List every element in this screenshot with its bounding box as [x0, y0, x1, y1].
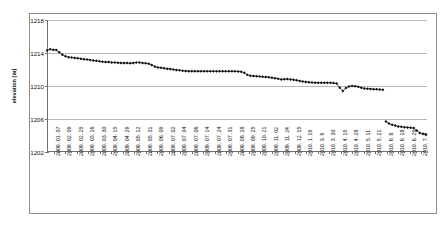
x-tick-label: 2009. 07. 06: [193, 127, 199, 156]
x-tick-label: 2010. 4. 28: [353, 129, 359, 156]
x-tick-label: 2009. 07. 02: [170, 127, 176, 156]
gridline: [48, 119, 427, 120]
y-tick-label: 1218: [30, 17, 44, 24]
x-tick-label: 2010. 6. 8: [388, 132, 394, 156]
y-tick-mark: [45, 86, 48, 87]
x-tick-label: 2009. 08. 28: [239, 127, 245, 156]
x-tick-label: 2009. 05. 31: [147, 127, 153, 156]
x-tick-label: 2009. 02. 25: [78, 127, 84, 156]
x-tick-label: 2009. 07. 04: [181, 127, 187, 156]
x-tick-label: 2009. 02. 09: [66, 127, 72, 156]
x-tick-label: 2009. 12. 15: [296, 127, 302, 156]
x-tick-label: 2009. 11. 02: [273, 127, 279, 156]
y-axis-title: elevation (m): [11, 69, 17, 104]
gridline: [48, 20, 427, 21]
x-tick-label: 2010. 4. 15: [342, 129, 348, 156]
x-tick-label: 2010. 3. 30: [330, 129, 336, 156]
x-tick-label: 2009. 07. 14: [204, 127, 210, 156]
x-tick-label: 2009. 03. 30: [101, 127, 107, 156]
y-tick-label: 1206: [30, 116, 44, 123]
y-tick-mark: [45, 53, 48, 54]
x-tick-label: 2009. 07. 24: [216, 127, 222, 156]
x-tick-label: 2009. 06. 09: [158, 127, 164, 156]
x-tick-label: 2009. 09. 25: [250, 127, 256, 156]
x-tick-label: 2010. 7. 8: [422, 132, 428, 156]
gridline: [48, 53, 427, 54]
x-tick-label: 2010. 6. 18: [399, 129, 405, 156]
x-tick-label: 2010. 3. 9: [319, 132, 325, 156]
x-tick-label: 2009. 04. 29: [124, 127, 130, 156]
x-tick-label: 2010. 5. 21: [376, 129, 382, 156]
y-tick-label: 1202: [30, 149, 44, 156]
gridline: [48, 86, 427, 87]
x-tick-label: 2009. 07. 31: [227, 127, 233, 156]
y-tick-mark: [45, 20, 48, 21]
x-tick-label: 2010. 1. 19: [307, 129, 313, 156]
x-tick-label: 2009. 11. 24: [284, 127, 290, 156]
y-tick-label: 1210: [30, 83, 44, 90]
y-tick-mark: [45, 119, 48, 120]
x-tick-label: 2010. 5. 11: [365, 130, 371, 156]
y-tick-label: 1214: [30, 50, 44, 57]
x-tick-label: 2009. 10. 21: [261, 127, 267, 156]
x-tick-label: 2009. 03. 16: [89, 127, 95, 156]
x-minor-tick-mark: [48, 151, 49, 153]
x-tick-label: 2010. 6. 29: [411, 129, 417, 156]
x-tick-label: 2009. 04. 15: [112, 127, 118, 156]
chart-figure: elevation (m) 12021206121012141218 2009.…: [0, 0, 448, 228]
x-tick-label: 2009. 01. 07: [55, 127, 61, 156]
x-tick-label: 2009. 05. 12: [135, 127, 141, 156]
